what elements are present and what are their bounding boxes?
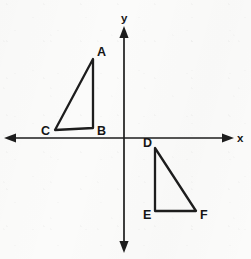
coordinate-plane-drawing: x y A B C D E F <box>0 0 251 259</box>
geometry-figure: x y A B C D E F <box>0 0 251 259</box>
x-axis-label: x <box>237 132 244 144</box>
x-axis-left-arrowhead <box>4 133 16 142</box>
x-axis-right-arrowhead <box>222 133 234 142</box>
triangle-abc: A B C <box>41 45 106 138</box>
y-axis-bottom-arrowhead <box>119 241 128 253</box>
y-axis-top-arrowhead <box>119 26 128 38</box>
y-axis-group: y <box>119 12 128 253</box>
triangle-def-outline <box>155 148 196 211</box>
vertex-label-a: A <box>97 45 106 59</box>
vertex-label-b: B <box>97 124 106 138</box>
triangle-abc-outline <box>55 59 93 130</box>
y-axis-label: y <box>121 12 128 24</box>
vertex-label-f: F <box>200 208 208 222</box>
vertex-label-d: D <box>143 136 152 150</box>
triangle-def: D E F <box>143 136 208 222</box>
vertex-label-e: E <box>143 208 151 222</box>
vertex-label-c: C <box>41 124 50 138</box>
